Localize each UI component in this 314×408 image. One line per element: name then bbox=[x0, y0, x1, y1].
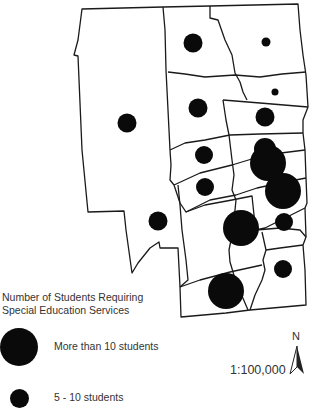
symbol-circle-5-10 bbox=[189, 99, 208, 118]
symbol-circle-5-10 bbox=[256, 108, 275, 127]
symbol-circle-5-10 bbox=[196, 178, 214, 196]
legend-title-line2: Special Education Services bbox=[2, 304, 143, 317]
legend-label-small: 5 - 10 students bbox=[54, 391, 123, 403]
boundary-h8 bbox=[250, 232, 266, 310]
symbol-circle-small bbox=[262, 38, 271, 47]
symbol-circle-5-10 bbox=[195, 146, 213, 164]
legend-title-line1: Number of Students Requiring bbox=[2, 291, 143, 304]
symbol-circle-5-10 bbox=[184, 34, 203, 53]
legend-large-circle-icon bbox=[0, 328, 38, 366]
symbol-circle-more-than-10 bbox=[208, 273, 244, 309]
legend-small-circle-icon bbox=[10, 389, 29, 408]
symbol-circle-5-10 bbox=[274, 260, 292, 278]
scale-text: 1:100,000 bbox=[230, 363, 286, 377]
north-label: N bbox=[292, 330, 300, 342]
symbol-circle-5-10 bbox=[275, 213, 293, 231]
symbol-circle-more-than-10 bbox=[265, 173, 301, 209]
boundary-h9 bbox=[266, 245, 303, 250]
north-arrow-icon bbox=[289, 345, 305, 375]
legend-label-large: More than 10 students bbox=[54, 340, 158, 352]
symbol-circle-5-10 bbox=[118, 114, 137, 133]
boundary-north-center bbox=[210, 6, 247, 100]
symbol-circle-5-10 bbox=[149, 212, 168, 231]
legend-title: Number of Students Requiring Special Edu… bbox=[2, 291, 143, 316]
symbol-circle-more-than-10 bbox=[223, 210, 259, 246]
boundary-h3 bbox=[170, 133, 303, 150]
symbol-circle-small bbox=[272, 89, 279, 96]
choropleth-map bbox=[0, 0, 314, 320]
boundary-h2 bbox=[223, 100, 308, 107]
boundary-west bbox=[163, 7, 174, 185]
